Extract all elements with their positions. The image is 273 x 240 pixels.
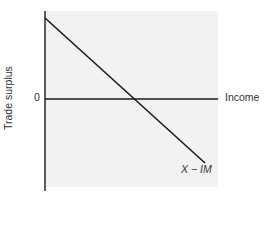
y-axis-label: Trade surplus [2,70,16,130]
series-label: X − IM [181,163,212,175]
zero-tick-label: 0 [34,91,40,103]
x-axis-label: Income [225,91,259,103]
